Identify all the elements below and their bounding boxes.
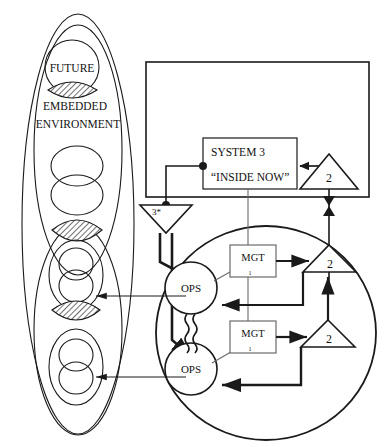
ops-upper-group: OPS <box>165 262 217 314</box>
environment-group: FUTURE EMBEDDED ENVIRONMENT <box>22 14 134 435</box>
coordination-triangle-top-group: 2 <box>300 154 358 189</box>
vsm-diagram: FUTURE EMBEDDED ENVIRONMENT SYSTEM 3 “IN… <box>0 0 391 447</box>
env-circle-bottom-b <box>59 362 93 394</box>
audit-triangle <box>140 205 192 233</box>
overlap-lens-middle <box>52 220 102 241</box>
overlap-lens-bottom <box>52 301 100 320</box>
audit-triangle-label: 3* <box>152 207 162 217</box>
junction-dot-system3 <box>199 162 207 170</box>
env-circle-upper-a <box>51 146 103 186</box>
mgt-lower-group: MGT 1 <box>230 321 276 353</box>
mgt-upper-sub: 1 <box>249 270 252 276</box>
system3-to-audit-connector <box>162 162 207 209</box>
system3-quote: “INSIDE NOW” <box>211 171 289 183</box>
future-label: FUTURE <box>50 62 95 74</box>
environment-lower-ellipse <box>34 225 122 435</box>
coordination-triangle-lower-mid-group: 2 <box>301 320 355 347</box>
coordination-vertical-channel <box>323 189 335 290</box>
env-circle-upper-b <box>51 175 103 215</box>
mgt-upper-group: MGT 1 <box>230 245 276 277</box>
mgt-lower-label: MGT <box>241 328 265 339</box>
diagram-canvas: FUTURE EMBEDDED ENVIRONMENT SYSTEM 3 “IN… <box>0 0 391 447</box>
overlap-lens-top <box>48 82 97 98</box>
coordination-triangle-upper-mid-label: 2 <box>327 257 333 271</box>
ops-lower-label: OPS <box>181 363 201 375</box>
system3-box-group: SYSTEM 3 “INSIDE NOW” <box>203 138 297 189</box>
coordination-triangle-upper-mid-group: 2 <box>303 245 356 272</box>
environment-label: ENVIRONMENT <box>36 118 120 130</box>
mgt-upper-label: MGT <box>241 252 265 263</box>
audit-triangle-group: 3* <box>140 205 192 233</box>
system3-label: SYSTEM 3 <box>211 146 265 158</box>
coordination-triangle-lower-mid-label: 2 <box>326 332 332 346</box>
mgt-lower-sub: 1 <box>249 346 252 352</box>
ops-lower-group: OPS <box>165 343 217 395</box>
coordination-triangle-top-label: 2 <box>326 171 332 185</box>
embedded-label: EMBEDDED <box>43 100 107 112</box>
ops-upper-label: OPS <box>181 282 201 294</box>
